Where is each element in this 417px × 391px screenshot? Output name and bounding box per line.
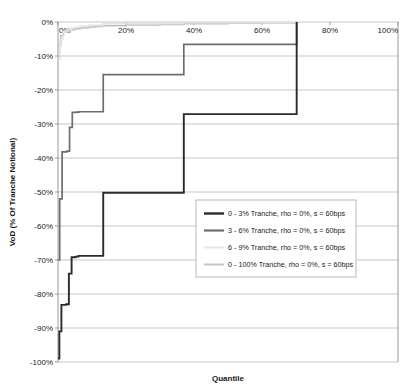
- x-tick-label: 100%: [378, 26, 398, 35]
- y-tick-label: -10%: [34, 52, 53, 61]
- x-tick-label: 40%: [186, 26, 202, 35]
- voD-quantile-step-chart: 0%-10%-20%-30%-40%-50%-60%-70%-80%-90%-1…: [0, 0, 417, 391]
- legend-item-label: 3 - 6% Tranche, rho = 0%, s = 60bps: [228, 226, 345, 235]
- y-tick-label: -30%: [34, 120, 53, 129]
- y-tick-label: -50%: [34, 188, 53, 197]
- y-tick-label: -80%: [34, 290, 53, 299]
- x-axis-title: Quantile: [212, 374, 245, 383]
- x-tick-label: 80%: [322, 26, 338, 35]
- legend-item-label: 0 - 100% Tranche, rho = 0%, s = 60bps: [228, 260, 353, 269]
- chart-legend: 0 - 3% Tranche, rho = 0%, s = 60bps3 - 6…: [196, 200, 356, 277]
- y-tick-label: 0%: [41, 18, 53, 27]
- x-tick-label: 60%: [254, 26, 270, 35]
- y-axis-title: VoD (% Of Tranche Notional): [8, 138, 17, 247]
- y-tick-label: -40%: [34, 154, 53, 163]
- y-tick-label: -90%: [34, 324, 53, 333]
- legend-item-label: 6 - 9% Tranche, rho = 0%, s = 60bps: [228, 243, 345, 252]
- y-tick-label: -100%: [30, 358, 53, 367]
- y-tick-label: -70%: [34, 256, 53, 265]
- y-tick-label: -20%: [34, 86, 53, 95]
- legend-item-label: 0 - 3% Tranche, rho = 0%, s = 60bps: [228, 209, 345, 218]
- x-tick-label: 20%: [118, 26, 134, 35]
- y-tick-label: -60%: [34, 222, 53, 231]
- chart-container: 0%-10%-20%-30%-40%-50%-60%-70%-80%-90%-1…: [0, 0, 417, 391]
